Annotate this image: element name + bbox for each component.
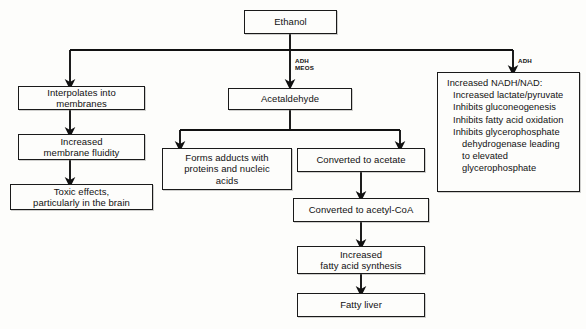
nadh-continuation-0: dehydrogenase leading [444, 138, 567, 150]
node-increased-membrane-fluidity[interactable]: Increased membrane fluidity [18, 134, 145, 160]
nadh-content: Increased NADH/NAD: Increased lactate/py… [438, 73, 573, 177]
flowchart-canvas: Ethanol Interpolates into membranes Incr… [0, 0, 586, 329]
node-adducts-label: Forms adducts with proteins and nucleic … [181, 152, 273, 187]
nadh-heading: Increased NADH/NAD: [444, 77, 567, 89]
node-ethanol-label: Ethanol [271, 16, 310, 28]
nadh-continuation-1: to elevated [444, 150, 567, 162]
node-fatty-liver-label: Fatty liver [337, 299, 385, 311]
edge-label-adh: ADH [518, 57, 532, 64]
node-interpolates-into-membranes[interactable]: Interpolates into membranes [18, 86, 145, 110]
node-acetaldehyde[interactable]: Acetaldehyde [228, 88, 352, 110]
nadh-item-0: Increased lactate/pyruvate [444, 89, 567, 101]
node-toxic-effects-label: Toxic effects, particularly in the brain [30, 186, 133, 209]
node-converted-to-acetate[interactable]: Converted to acetate [297, 148, 425, 172]
node-forms-adducts[interactable]: Forms adducts with proteins and nucleic … [162, 148, 292, 190]
node-fatty-acid-synthesis-label: Increased fatty acid synthesis [317, 249, 404, 272]
node-membrane-fluidity-label: Increased membrane fluidity [41, 136, 123, 159]
node-acetate-label: Converted to acetate [313, 154, 408, 166]
nadh-item-3: Inhibits glycerophosphate [444, 126, 567, 138]
node-converted-to-acetyl-coa[interactable]: Converted to acetyl-CoA [293, 198, 429, 222]
nadh-continuation-2: glycerophosphate [444, 162, 567, 174]
node-interpolates-label: Interpolates into membranes [44, 87, 118, 110]
nadh-item-1: Inhibits gluconeogenesis [444, 101, 567, 113]
node-acetaldehyde-label: Acetaldehyde [258, 93, 322, 105]
node-increased-nadh-nad[interactable]: Increased NADH/NAD: Increased lactate/py… [437, 72, 580, 192]
edge-label-adh-meos: ADH MEOS [295, 57, 314, 72]
node-increased-fatty-acid-synthesis[interactable]: Increased fatty acid synthesis [297, 246, 425, 274]
node-acetyl-coa-label: Converted to acetyl-CoA [306, 204, 417, 216]
node-fatty-liver[interactable]: Fatty liver [297, 293, 425, 317]
node-toxic-effects[interactable]: Toxic effects, particularly in the brain [10, 184, 153, 210]
node-ethanol[interactable]: Ethanol [244, 10, 337, 34]
nadh-item-2: Inhibits fatty acid oxidation [444, 114, 567, 126]
